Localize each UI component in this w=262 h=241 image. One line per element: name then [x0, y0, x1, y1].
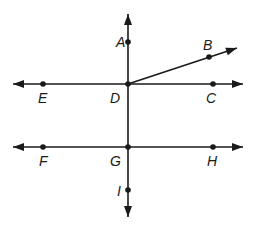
arrowhead-icon [232, 80, 243, 88]
point-c [210, 81, 216, 87]
point-f [40, 144, 46, 150]
point-b [206, 54, 212, 60]
arrowhead-icon [13, 80, 24, 88]
geometry-diagram: ABCDEFGHI [0, 0, 262, 241]
arrowhead-icon [13, 143, 24, 151]
point-h [210, 144, 216, 150]
label-d: D [110, 90, 120, 106]
point-d [125, 81, 131, 87]
label-c: C [206, 90, 217, 106]
point-i [125, 187, 131, 193]
ray-DB [128, 48, 237, 84]
point-g [125, 144, 131, 150]
label-i: I [117, 183, 121, 199]
point-e [40, 81, 46, 87]
point-a [125, 39, 131, 45]
arrowhead-icon [124, 206, 132, 217]
label-b: B [203, 37, 212, 53]
arrowhead-icon [124, 14, 132, 25]
arrowhead-icon [225, 48, 237, 56]
label-e: E [38, 90, 48, 106]
label-a: A [115, 34, 125, 50]
label-g: G [110, 153, 121, 169]
arrowhead-icon [232, 143, 243, 151]
label-h: H [207, 153, 218, 169]
label-f: F [39, 153, 49, 169]
